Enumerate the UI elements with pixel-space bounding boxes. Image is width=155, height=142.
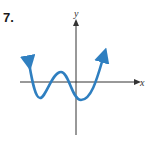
polynomial-curve (29, 55, 104, 100)
y-axis-label: y (73, 8, 79, 19)
x-axis-label: x (139, 77, 145, 88)
graph: x y (0, 0, 155, 142)
